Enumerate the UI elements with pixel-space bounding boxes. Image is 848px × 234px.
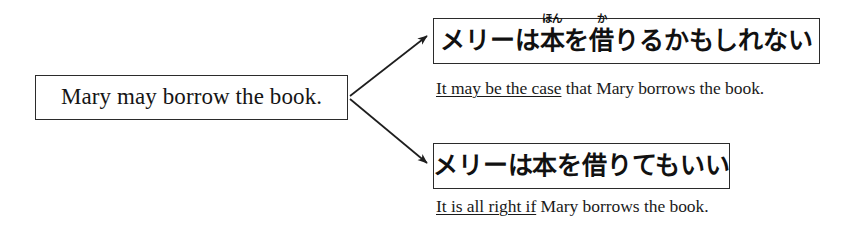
gloss-underlined-part: It may be the case (436, 78, 561, 98)
arrow-down-right (350, 99, 427, 163)
japanese-sentence-deontic: メリーは本を借りてもいい (433, 153, 730, 179)
source-sentence-text: Mary may borrow the book. (61, 85, 322, 110)
japanese-sentence-box-deontic: メリーは本を借りてもいい (433, 143, 730, 189)
japanese-sentence-epistemic: メリーは ほん 本 を か 借 りるかもしれない (440, 28, 812, 54)
gloss-plain-part: that Mary borrows the book. (561, 78, 764, 98)
furigana-ka: か (597, 13, 607, 24)
source-sentence-box: Mary may borrow the book. (35, 75, 348, 120)
gloss-plain-part: Mary borrows the book. (536, 196, 708, 216)
arrow-up-right (350, 36, 427, 96)
jp-segment: メリーは本を借りてもいい (433, 153, 730, 178)
jp-segment: りるかもしれない (614, 28, 812, 53)
furigana-hon: ほん (542, 13, 562, 24)
japanese-sentence-box-epistemic: メリーは ほん 本 を か 借 りるかもしれない (433, 18, 820, 64)
gloss-underlined-part: It is all right if (436, 196, 536, 216)
jp-segment-with-furigana: か 借 (589, 28, 614, 53)
english-gloss-deontic: It is all right if Mary borrows the book… (436, 198, 709, 216)
jp-segment: メリーは (440, 28, 539, 53)
jp-segment: を (564, 28, 589, 53)
jp-segment-with-furigana: ほん 本 (540, 28, 565, 53)
derivation-diagram: Mary may borrow the book. メリーは ほん 本 を か … (0, 0, 848, 234)
english-gloss-epistemic: It may be the case that Mary borrows the… (436, 80, 764, 98)
